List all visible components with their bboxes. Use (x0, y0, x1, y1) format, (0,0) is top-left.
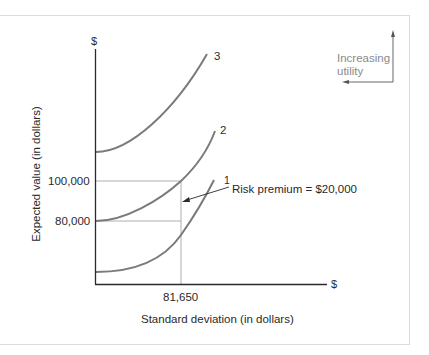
x-axis-unit: $ (331, 279, 337, 290)
y-axis-unit: $ (91, 36, 97, 47)
curves (96, 54, 215, 272)
curve-2 (96, 131, 215, 221)
risk-premium-arrow (182, 187, 229, 202)
curve-3 (96, 54, 207, 152)
axes (95, 49, 327, 285)
curve-1 (96, 180, 214, 272)
x-axis-label: Standard deviation (in dollars) (141, 314, 294, 326)
risk-premium-annotation: Risk premium = $20,000 (232, 184, 357, 196)
curve-2-label: 2 (220, 125, 226, 137)
curve-3-label: 3 (214, 51, 220, 63)
arrow-left-icon (342, 80, 349, 84)
y-axis-label: Expected value (in dollars) (30, 106, 42, 242)
y-tick-80000: 80,000 (55, 216, 90, 228)
x-tick-81650: 81,650 (163, 292, 198, 304)
curve-1-label: 1 (224, 175, 230, 186)
y-tick-100000: 100,000 (48, 176, 90, 188)
arrow-up-icon (391, 30, 395, 37)
increasing-utility-label: Increasing utility (337, 52, 397, 78)
reference-lines (96, 181, 181, 284)
